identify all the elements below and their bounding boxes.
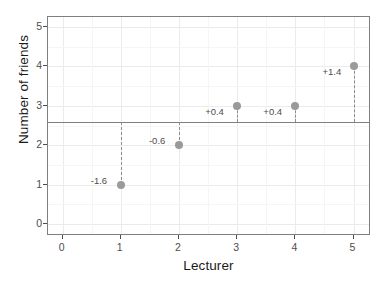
residual-line xyxy=(121,122,122,185)
gridline-vertical-minor xyxy=(324,17,325,234)
scatter-plot-figure: Number of friends Lecturer 012345 012345… xyxy=(0,0,388,284)
residual-label: +0.4 xyxy=(205,107,224,117)
x-tick-mark xyxy=(62,235,63,239)
y-tick-label: 3 xyxy=(14,100,42,111)
x-tick-label: 3 xyxy=(221,242,251,253)
gridline-vertical-minor xyxy=(208,17,209,234)
x-tick-label: 5 xyxy=(338,242,368,253)
data-point xyxy=(291,102,299,110)
x-tick-mark xyxy=(236,235,237,239)
x-tick-label: 2 xyxy=(163,242,193,253)
residual-label: +1.4 xyxy=(323,67,342,77)
data-point xyxy=(175,141,183,149)
y-tick-label: 1 xyxy=(14,179,42,190)
gridline-vertical-minor xyxy=(266,17,267,234)
residual-label: +0.4 xyxy=(263,107,282,117)
y-tick-label: 0 xyxy=(14,218,42,229)
y-tick-label: 2 xyxy=(14,139,42,150)
x-tick-mark xyxy=(353,235,354,239)
y-tick-label: 5 xyxy=(14,21,42,32)
x-tick-mark xyxy=(294,235,295,239)
x-tick-mark xyxy=(120,235,121,239)
data-point xyxy=(350,62,358,70)
plot-panel: -1.6-0.6+0.4+0.4+1.4 xyxy=(47,16,370,235)
residual-line xyxy=(354,66,355,121)
x-axis-title: Lecturer xyxy=(47,258,370,273)
data-point xyxy=(233,102,241,110)
y-axis-tick-labels: 012345 xyxy=(12,0,42,284)
gridline-vertical-minor xyxy=(92,17,93,234)
y-tick-label: 4 xyxy=(14,60,42,71)
residual-label: -0.6 xyxy=(149,136,165,146)
gridline-vertical-minor xyxy=(150,17,151,234)
residual-label: -1.6 xyxy=(91,176,107,186)
data-point xyxy=(117,181,125,189)
mean-reference-line xyxy=(48,122,369,123)
x-tick-label: 4 xyxy=(279,242,309,253)
x-tick-label: 1 xyxy=(105,242,135,253)
x-tick-mark xyxy=(178,235,179,239)
x-tick-label: 0 xyxy=(47,242,77,253)
